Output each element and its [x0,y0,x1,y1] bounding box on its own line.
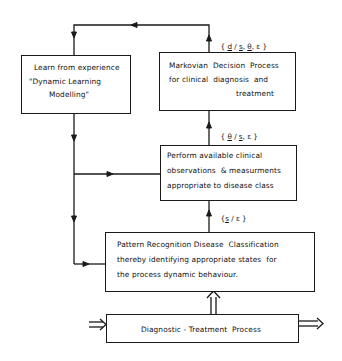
edge-label-markovian-top: { d / s, θ, ε } [216,33,267,51]
perform-line-2: observations & measurments [167,164,281,178]
pattern-line-3: the process dynamic behaviour. [117,268,238,282]
diagnostic-treatment-process-box: Diagnostic - Treatment Process [106,314,299,343]
arrow-up-icon [207,210,212,216]
edge-label-markovian-to-perform: { θ / s, ε } [216,123,258,141]
arrow-down-icon [72,216,77,222]
brace-close: } [260,42,267,51]
separator: / [232,42,239,51]
separator: / [229,214,236,223]
arrow-up-icon [207,122,212,128]
perform-line-3: appropriate to disease class [167,179,274,193]
separator: / [232,132,239,141]
pattern-line-1: Pattern Recognition Disease Classificati… [117,238,279,252]
perform-line-1: Perform available clinical [167,149,262,163]
learn-line-3: Modelling" [49,88,89,102]
markovian-line-2: for clinical diagnosis and [169,73,268,87]
arrow-right-icon [107,172,113,177]
arrow-down-icon [72,135,77,141]
arrow-up-icon [207,35,212,41]
learn-from-experience-box: Learn from experience "Dynamic Learning … [21,55,131,114]
pattern-line-2: thereby identifying appropriate states f… [117,253,277,267]
double-arrow-up-icon [207,291,220,298]
arrow-right-icon [83,262,89,267]
brace-close: } [251,132,258,141]
brace-close: } [240,214,247,223]
double-arrow-right-icon [317,318,323,329]
markovian-decision-process-box: Markovian Decision Process for clinical … [159,52,296,111]
learn-line-1: Learn from experience [34,61,120,75]
pattern-recognition-box: Pattern Recognition Disease Classificati… [105,232,315,292]
edge-label-perform-to-pattern: {s / ε } [216,205,247,223]
markovian-line-1: Markovian Decision Process [169,59,279,73]
arrow-left-icon [131,23,137,28]
markovian-line-3: treatment [236,87,274,101]
arrow-down-icon [72,32,77,38]
learn-line-2: "Dynamic Learning [29,75,101,89]
diagnostic-label: Diagnostic - Treatment Process [141,323,261,337]
perform-observations-box: Perform available clinical observations … [160,145,297,201]
